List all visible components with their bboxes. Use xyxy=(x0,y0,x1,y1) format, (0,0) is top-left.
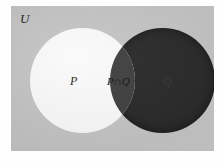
universal-set-label: U xyxy=(20,11,30,27)
set-p-intersect-q-region xyxy=(110,28,135,133)
universal-set-region: U P P∩Q Q xyxy=(11,6,214,151)
venn-diagram-figure: U P P∩Q Q xyxy=(0,0,223,164)
intersection-clip xyxy=(30,28,135,133)
